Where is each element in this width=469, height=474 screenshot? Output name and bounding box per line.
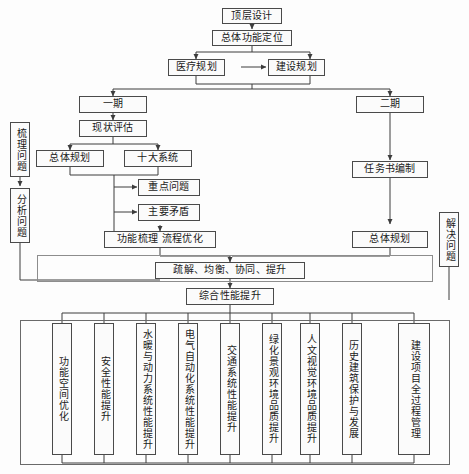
side-label-sort-problem[interactable]: 梳理问题 — [10, 122, 30, 177]
node-phase-two[interactable]: 二期 — [356, 96, 424, 113]
bottom-item-1[interactable]: 安全性能提升 — [94, 323, 114, 455]
bottom-item-2[interactable]: 水暖与动力系统性能提升 — [136, 323, 156, 455]
bottom-item-5[interactable]: 绿化景观环境品质提升 — [262, 323, 282, 455]
node-principles[interactable]: 疏解、均衡、协同、提升 — [155, 262, 305, 279]
node-construction-plan[interactable]: 建设规划 — [268, 59, 325, 76]
node-key-issues[interactable]: 重点问题 — [138, 179, 200, 196]
side-label-analyze-problem[interactable]: 分析问题 — [10, 188, 30, 243]
node-top-design[interactable]: 顶层设计 — [222, 8, 282, 24]
bottom-item-4[interactable]: 交通系统性能提升 — [220, 323, 240, 455]
bottom-item-6[interactable]: 人文视觉环境品质提升 — [300, 323, 320, 455]
node-status-eval[interactable]: 现状评估 — [79, 120, 147, 137]
node-main-contradiction[interactable]: 主要矛盾 — [138, 204, 200, 221]
node-function-process[interactable]: 功能梳理 流程优化 — [104, 231, 216, 248]
node-overall-planning-right[interactable]: 总体规划 — [352, 231, 428, 248]
node-overall-function[interactable]: 总体功能定位 — [212, 30, 292, 46]
node-overall-planning-left[interactable]: 总体规划 — [36, 150, 104, 167]
bottom-item-0[interactable]: 功能空间优化 — [52, 323, 72, 455]
node-phase-one[interactable]: 一期 — [79, 96, 147, 113]
node-ten-systems[interactable]: 十大系统 — [124, 150, 192, 167]
bottom-item-7[interactable]: 历史建筑保护与发展 — [342, 323, 362, 455]
bottom-item-8[interactable]: 建设项目全过程管理 — [398, 323, 430, 455]
flowchart-canvas: 顶层设计 总体功能定位 医疗规划 建设规划 一期 现状评估 总体规划 十大系统 … — [0, 0, 469, 474]
side-label-solve-problem[interactable]: 解决问题 — [439, 212, 459, 267]
node-medical-plan[interactable]: 医疗规划 — [168, 59, 225, 76]
node-comprehensive-performance[interactable]: 综合性能提升 — [186, 288, 274, 305]
bottom-item-3[interactable]: 电气自动化系统性能提升 — [178, 323, 198, 455]
node-task-book[interactable]: 任务书编制 — [352, 161, 428, 178]
